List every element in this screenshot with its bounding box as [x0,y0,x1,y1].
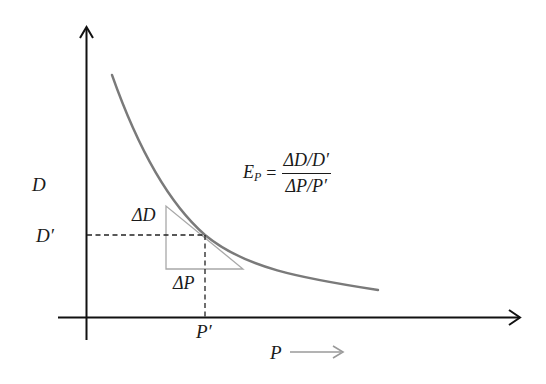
formula-fraction: ΔD/D′ ΔP/P′ [282,150,332,197]
delta-p-label: ΔP [173,274,195,292]
y-axis [80,27,93,340]
formula-lhs: EP [243,162,261,185]
formula-denominator: ΔP/P′ [284,174,330,197]
x-axis [58,310,520,325]
formula-numerator: ΔD/D′ [282,150,332,174]
y-axis-label: D [32,175,46,194]
d-prime-label: D′ [36,226,54,245]
formula-lhs-symbol: E [243,162,254,182]
formula-equals: = [266,163,276,184]
x-axis-label: P [270,343,282,362]
p-direction-arrow-icon [290,346,343,358]
p-prime-label: P′ [196,322,212,341]
delta-d-label: ΔD [132,206,156,224]
formula-lhs-subscript: P [254,170,261,184]
elasticity-formula: EP = ΔD/D′ ΔP/P′ [243,150,331,197]
